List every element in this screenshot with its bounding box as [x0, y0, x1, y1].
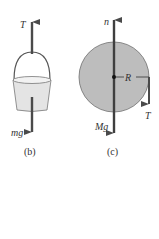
caption-b: (b) — [24, 146, 36, 158]
disk-diagram: n R T Mg (c) — [79, 16, 152, 158]
tension-label-b: T — [20, 19, 27, 30]
tension-label-c: T — [145, 110, 152, 121]
caption-c: (c) — [107, 146, 118, 158]
normal-label: n — [104, 16, 109, 27]
weight-label-c: Mg — [94, 121, 108, 132]
weight-label-b: mg — [11, 127, 23, 138]
radius-label: R — [124, 72, 131, 83]
bucket-diagram: T mg (b) — [11, 19, 51, 158]
bucket-rim — [13, 77, 51, 84]
center-point — [112, 75, 116, 79]
free-body-diagrams: T mg (b) n R T Mg (c) — [0, 0, 159, 239]
bucket-handle — [14, 52, 50, 80]
